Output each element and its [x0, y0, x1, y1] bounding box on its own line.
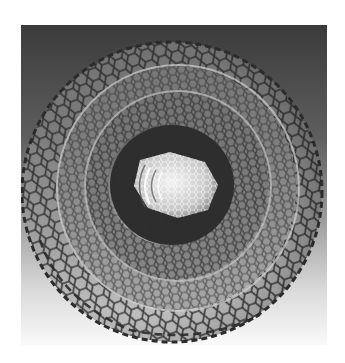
carbon-nanotube-illustration: [0, 0, 345, 363]
image-panel: [21, 25, 327, 345]
nanotube-svg: [0, 0, 345, 363]
